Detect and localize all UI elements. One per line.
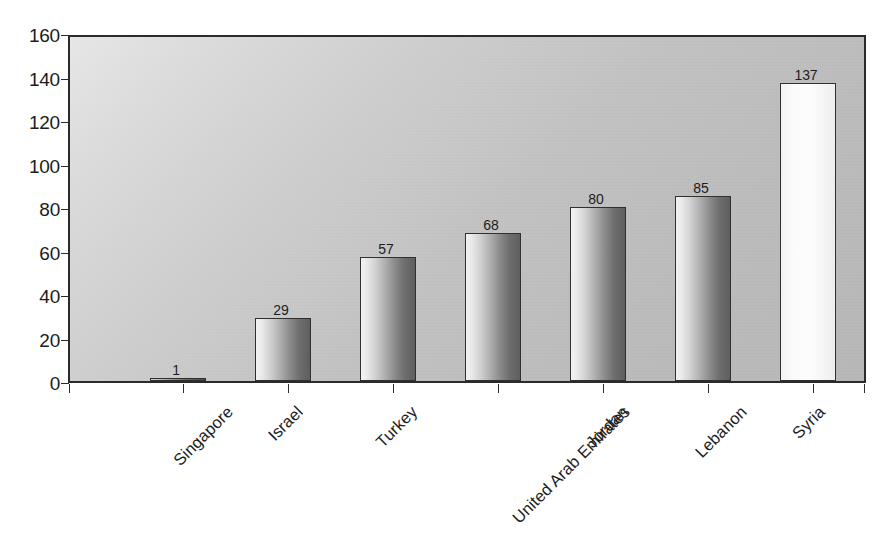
x-axis-label-singapore: Singapore [170, 403, 235, 468]
x-axis-label-turkey: Turkey [373, 403, 420, 450]
x-axis-label-lebanon: Lebanon [692, 403, 750, 461]
x-axis-label-syria: Syria [789, 403, 828, 442]
x-axis-category-labels: Singapore Israel Turkey United Arab Emir… [0, 0, 889, 560]
x-axis-label-jordan: Jordan [583, 403, 631, 451]
bar-chart: 160 140 120 100 80 60 40 20 0 1 29 57 [0, 0, 889, 560]
x-axis-label-israel: Israel [265, 403, 306, 444]
